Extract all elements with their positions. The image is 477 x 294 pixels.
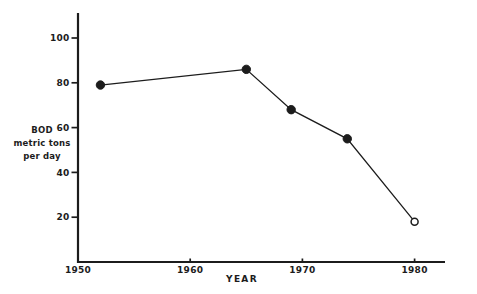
y-axis-title-units-line2: per day	[8, 150, 76, 163]
x-axis-title: YEAR	[211, 274, 273, 284]
x-tick-label: 1960	[177, 265, 203, 275]
data-point	[343, 135, 351, 143]
x-tick-label: 1980	[401, 265, 427, 275]
data-point	[242, 65, 250, 73]
y-axis-title-abbrev: BOD	[8, 124, 76, 137]
bod-trend-figure: 204060801001950196019701980 BOD metric t…	[0, 0, 477, 294]
y-axis-title-units-line1: metric tons	[8, 137, 76, 150]
data-point	[96, 81, 104, 89]
data-line	[100, 69, 414, 221]
data-point-open	[411, 218, 418, 225]
data-point	[287, 105, 295, 113]
y-axis-title: BOD metric tons per day	[8, 124, 76, 163]
y-tick-label: 40	[57, 168, 70, 178]
y-tick-label: 100	[50, 33, 69, 43]
y-tick-label: 20	[57, 212, 70, 222]
y-tick-label: 80	[57, 78, 70, 88]
x-tick-label: 1970	[289, 265, 315, 275]
x-tick-label: 1950	[65, 265, 91, 275]
